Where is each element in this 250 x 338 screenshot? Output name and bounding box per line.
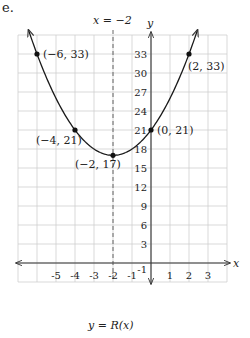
- x-tick-label: 2: [186, 270, 192, 281]
- x-tick-label: -5: [51, 270, 61, 281]
- point-label: (2, 33): [188, 60, 225, 73]
- x-tick-label: 3: [205, 270, 211, 281]
- labeled-points: (−6, 33)(−4, 21)(−2, 17)(0, 21)(2, 33): [34, 48, 224, 171]
- point-label: (0, 21): [157, 124, 194, 137]
- point-label: (−2, 17): [75, 158, 121, 171]
- x-tick-label: -3: [89, 270, 99, 281]
- x-axis-label: x: [233, 257, 240, 270]
- y-tick-label: 6: [141, 220, 147, 231]
- x-tick-label: -1: [127, 270, 137, 281]
- data-point: [72, 127, 77, 132]
- point-label: (−6, 33): [43, 48, 89, 61]
- y-tick-label: 30: [134, 68, 147, 79]
- data-point: [186, 51, 191, 56]
- y-tick-label: 9: [141, 201, 147, 212]
- y-tick-label: 33: [134, 49, 147, 60]
- point-label: (−4, 21): [36, 134, 82, 147]
- y-tick-label: 3: [141, 239, 147, 250]
- y-tick-label: 27: [134, 87, 147, 98]
- x-tick-label: -2: [108, 270, 118, 281]
- data-point: [110, 153, 115, 158]
- y-tick-label: 12: [134, 182, 147, 193]
- axis-of-symmetry-label: x = −2: [93, 14, 132, 27]
- x-tick-label: 1: [167, 270, 173, 281]
- y-tick-label: 24: [134, 106, 147, 117]
- y-tick-label: 18: [134, 144, 147, 155]
- y-axis-label: y: [146, 17, 154, 30]
- y-tick-label: 21: [134, 125, 147, 136]
- parabola-chart: (−6, 33)(−4, 21)(−2, 17)(0, 21)(2, 33) -…: [0, 0, 250, 338]
- data-point: [148, 127, 153, 132]
- data-point: [34, 51, 39, 56]
- y-tick-label: 15: [134, 163, 147, 174]
- x-tick-label: -4: [70, 270, 80, 281]
- function-label: y = R(x): [87, 319, 134, 332]
- y-tick-label: -1: [137, 264, 147, 275]
